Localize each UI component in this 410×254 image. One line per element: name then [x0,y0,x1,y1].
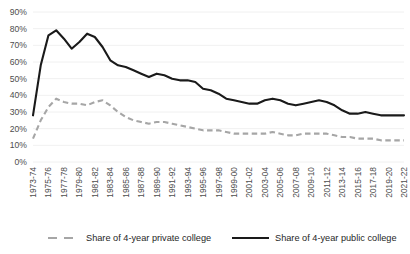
x-axis-tick-label: 1979-80 [74,167,84,198]
x-axis-tick-label: 2013-14 [337,167,347,198]
line-chart: 0%10%20%30%40%50%60%70%80%90% 1973-74197… [0,0,410,254]
chart-container: 0%10%20%30%40%50%60%70%80%90% 1973-74197… [0,0,410,254]
y-axis-tick-label: 80% [10,24,28,34]
y-axis-tick-label: 50% [10,74,28,84]
y-axis-tick-label: 10% [10,140,28,150]
y-axis-tick-label: 60% [10,57,28,67]
y-axis-tick-label: 0% [15,157,28,167]
chart-legend: Share of 4-year private collegeShare of … [48,233,397,243]
x-axis-tick-label: 2019-20 [384,167,394,198]
x-axis-tick-label: 1991-92 [167,167,177,198]
x-axis-tick-label: 2017-18 [368,167,378,198]
x-axis-tick-label: 1997-98 [214,167,224,198]
x-axis-tick-label: 2007-08 [291,167,301,198]
x-axis-tick-label: 1987-88 [136,167,146,198]
x-axis-tick-label: 2009-10 [306,167,316,198]
y-axis-tick-label: 90% [10,7,28,17]
legend-label-private: Share of 4-year private college [86,233,211,243]
x-axis-tick-label: 2021-22 [399,167,409,198]
x-axis-tick-label: 2011-12 [322,167,332,197]
series-line-private [33,99,404,141]
x-axis-tick-label: 1985-86 [121,167,131,198]
x-axis-tick-label: 2005-06 [275,167,285,198]
x-axis-tick-labels: 1973-741975-761977-781979-801981-821983-… [28,167,409,198]
series-line-public [33,30,404,115]
x-axis-tick-label: 1975-76 [43,167,53,198]
x-axis-tick-label: 1977-78 [59,167,69,198]
y-axis-tick-label: 30% [10,107,28,117]
x-axis-tick-label: 2001-02 [244,167,254,198]
y-axis-tick-label: 40% [10,90,28,100]
x-axis-tick-label: 1973-74 [28,167,38,198]
x-axis-tick-label: 1995-96 [198,167,208,198]
y-axis-tick-label: 70% [10,40,28,50]
legend-label-public: Share of 4-year public college [275,233,397,243]
x-axis-tick-label: 1981-82 [90,167,100,198]
y-axis-tick-label: 20% [10,124,28,134]
y-axis-tick-labels: 0%10%20%30%40%50%60%70%80%90% [10,7,28,167]
data-series [33,30,404,140]
x-axis-tick-label: 1993-94 [183,167,193,198]
x-axis-tick-label: 1989-90 [152,167,162,198]
x-axis-tick-label: 2015-16 [353,167,363,198]
x-axis-tick-label: 1999-00 [229,167,239,198]
x-axis-tick-label: 1983-84 [105,167,115,198]
x-axis-tick-label: 2003-04 [260,167,270,198]
